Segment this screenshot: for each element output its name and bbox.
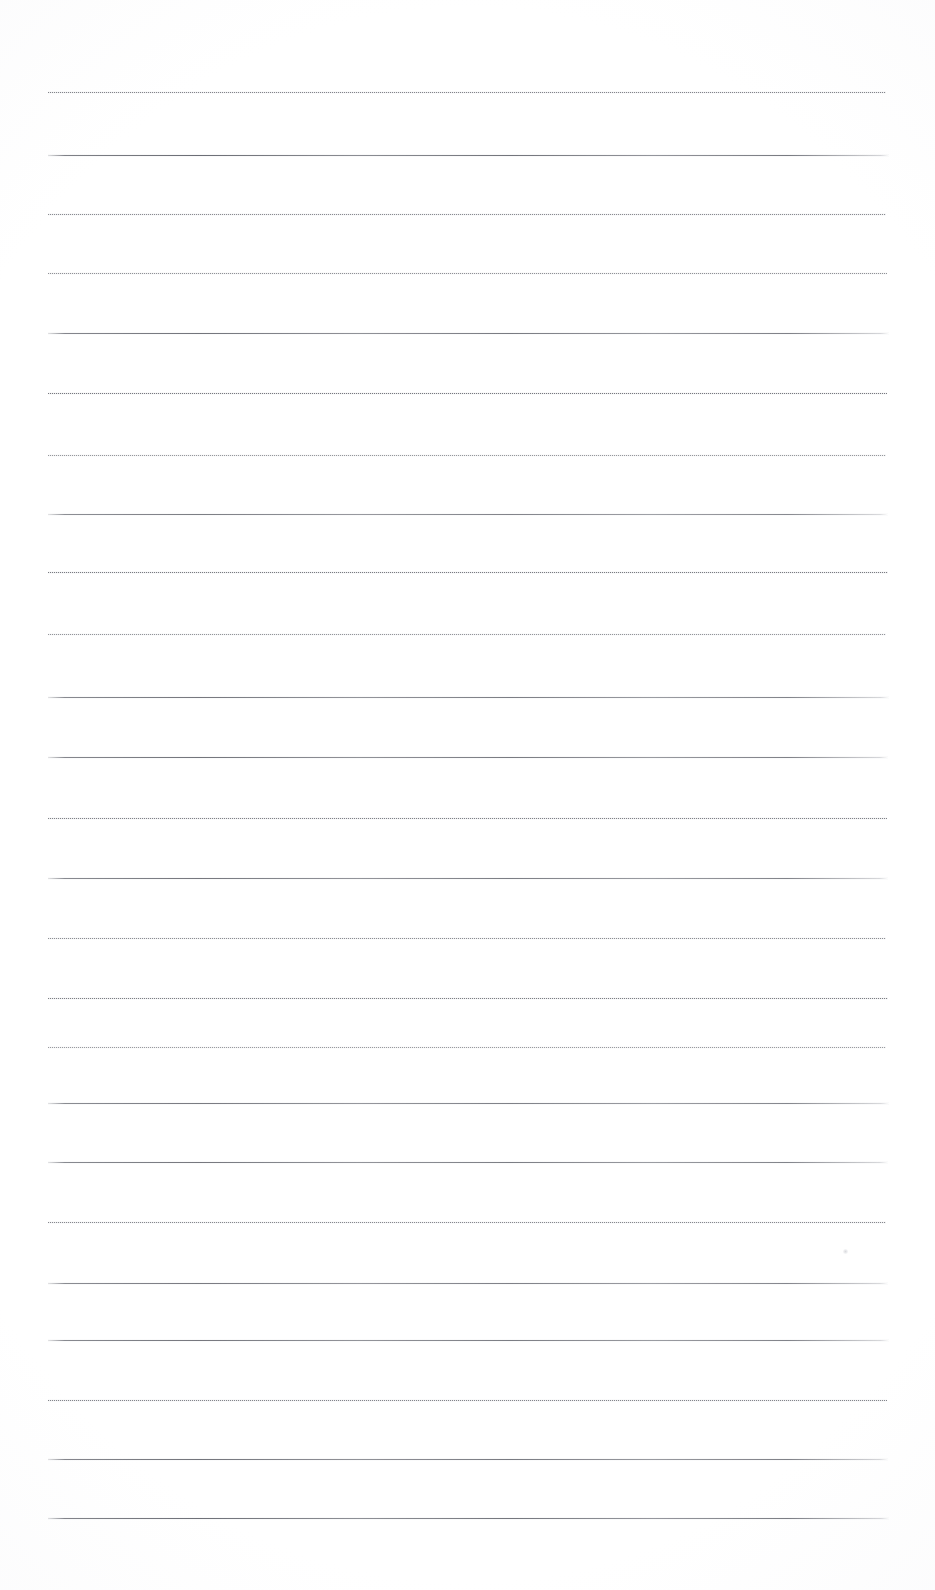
rule-line-ink xyxy=(48,1162,888,1163)
rule-line-ink xyxy=(48,818,887,819)
rule-line xyxy=(48,817,887,820)
rule-line-ink xyxy=(48,572,888,573)
rule-line-halo xyxy=(48,332,889,335)
rule-line-halo xyxy=(48,392,887,395)
rule-line xyxy=(48,513,888,516)
rule-line xyxy=(48,937,886,940)
rule-line-ink xyxy=(48,1283,888,1284)
rule-line-halo xyxy=(48,213,886,216)
rule-line xyxy=(48,154,889,157)
rule-line-halo xyxy=(48,1282,888,1285)
rule-line-ink xyxy=(48,998,888,999)
rule-line-ink xyxy=(48,757,888,758)
rule-line-ink xyxy=(48,697,889,698)
rule-line-ink xyxy=(48,514,888,515)
rule-line-ink xyxy=(48,1459,888,1460)
rule-line-halo xyxy=(48,1458,888,1461)
paper-texture xyxy=(0,0,935,1590)
rule-line-ink xyxy=(48,455,886,456)
rule-line xyxy=(48,1282,888,1285)
rule-line-halo xyxy=(48,756,888,759)
rule-line-halo xyxy=(48,817,887,820)
rule-line-halo xyxy=(48,91,886,94)
rule-line-ink xyxy=(48,1518,889,1519)
rule-line xyxy=(48,1221,886,1224)
rule-line-halo xyxy=(48,696,889,699)
rule-line-ink xyxy=(48,92,886,93)
rule-line-ink xyxy=(48,393,887,394)
rule-line xyxy=(48,1339,889,1342)
rule-line xyxy=(48,696,889,699)
rule-line-halo xyxy=(48,454,886,457)
rule-line xyxy=(48,1517,889,1520)
rule-line-halo xyxy=(48,937,886,940)
rule-line xyxy=(48,1161,888,1164)
rule-line-ink xyxy=(48,1340,889,1341)
rule-line-ink xyxy=(48,938,886,939)
rule-line-ink xyxy=(48,273,887,274)
rule-line-halo xyxy=(48,154,889,157)
rule-line xyxy=(48,756,888,759)
rule-line-ink xyxy=(48,1222,886,1223)
rule-line xyxy=(48,571,888,574)
rule-line xyxy=(48,91,886,94)
rule-line-halo xyxy=(48,1161,888,1164)
rule-line-halo xyxy=(48,1399,887,1402)
rule-line-halo xyxy=(48,1102,889,1105)
rule-line-ink xyxy=(48,1047,886,1048)
rule-line xyxy=(48,1046,886,1049)
rule-line-ink xyxy=(48,634,886,635)
rule-line-ink xyxy=(48,1400,887,1401)
rule-line xyxy=(48,213,886,216)
rule-line-ink xyxy=(48,1103,889,1104)
rule-line xyxy=(48,877,888,880)
rule-line-halo xyxy=(48,571,888,574)
scanned-page xyxy=(0,0,935,1590)
rule-line-halo xyxy=(48,633,886,636)
rule-line-halo xyxy=(48,1517,889,1520)
rule-line-halo xyxy=(48,513,888,516)
rule-line-halo xyxy=(48,1339,889,1342)
rule-line-halo xyxy=(48,997,888,1000)
rule-line-halo xyxy=(48,272,887,275)
rule-line-ink xyxy=(48,878,888,879)
rule-line xyxy=(48,1458,888,1461)
rule-line xyxy=(48,1399,887,1402)
rule-line-ink xyxy=(48,155,889,156)
rule-line-halo xyxy=(48,877,888,880)
rule-line xyxy=(48,332,889,335)
rule-line-ink xyxy=(48,333,889,334)
rule-line xyxy=(48,392,887,395)
rule-line xyxy=(48,272,887,275)
rule-line-halo xyxy=(48,1221,886,1224)
rule-line xyxy=(48,1102,889,1105)
rule-line-ink xyxy=(48,214,886,215)
rule-line xyxy=(48,633,886,636)
scan-speck-artifact xyxy=(843,1249,848,1254)
rule-line xyxy=(48,454,886,457)
rule-line xyxy=(48,997,888,1000)
rule-line-halo xyxy=(48,1046,886,1049)
